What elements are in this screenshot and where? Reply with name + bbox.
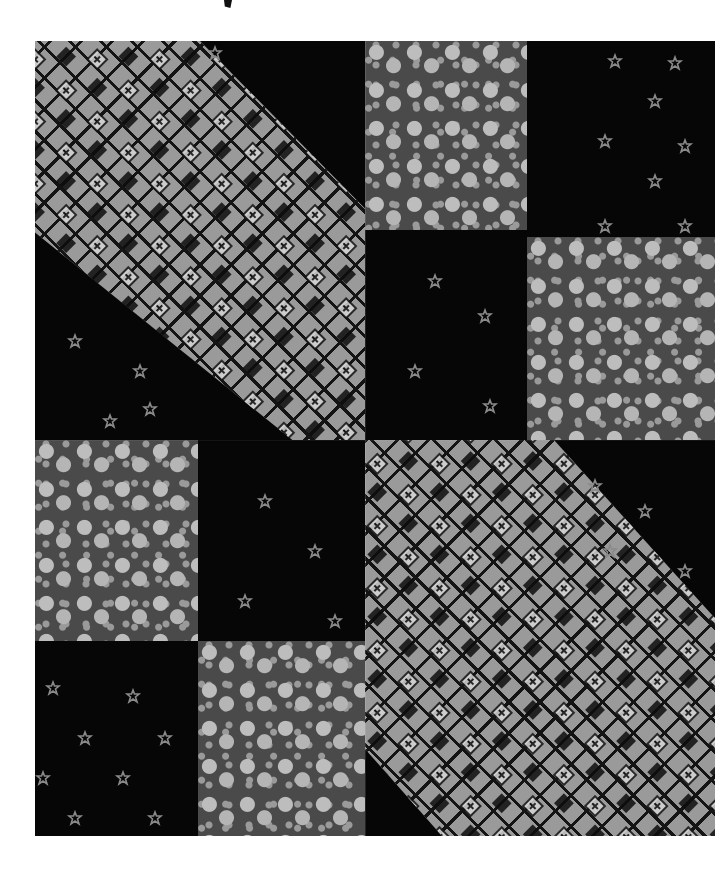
cross-motifs-bottom-right: [365, 440, 715, 836]
vertical-seam: [365, 41, 366, 836]
top-mark: [224, 0, 232, 8]
cross-motifs-top-left: [35, 41, 365, 440]
fabric-motifs-overlay: [35, 41, 715, 836]
horizontal-seam: [35, 440, 715, 441]
quilt-block: [35, 41, 715, 836]
